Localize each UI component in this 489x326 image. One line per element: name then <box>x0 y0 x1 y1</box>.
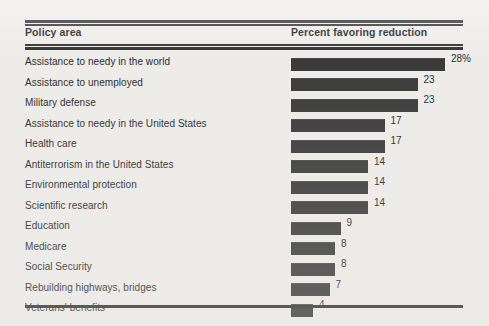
bar <box>291 222 341 235</box>
bar-container <box>291 78 418 90</box>
bar <box>291 242 335 255</box>
category-label: Health care <box>25 138 77 149</box>
bar <box>291 263 335 276</box>
bar-value-label: 17 <box>391 135 402 146</box>
bar-value-label: 17 <box>391 115 402 126</box>
category-label: Rebuilding highways, bridges <box>25 282 156 293</box>
bar-value-label: 8 <box>341 238 347 249</box>
chart-row: Assistance to unemployed23 <box>0 75 489 96</box>
bar-value-label: 23 <box>424 94 435 105</box>
category-label: Assistance to needy in the United States <box>25 118 207 129</box>
chart-row: Education9 <box>0 218 489 239</box>
bar-value-label: 28% <box>451 53 471 64</box>
bar-container <box>291 140 385 152</box>
category-label: Military defense <box>25 97 96 108</box>
category-label: Assistance to unemployed <box>25 77 143 88</box>
chart-rows: Assistance to needy in the world28%Assis… <box>0 0 489 326</box>
category-label: Environmental protection <box>25 179 137 190</box>
chart-row: Military defense23 <box>0 95 489 116</box>
bar-container <box>291 58 445 70</box>
bar-container <box>291 242 335 254</box>
bar <box>291 181 368 194</box>
footer-rule <box>25 305 463 308</box>
category-label: Antiterrorism in the United States <box>25 159 173 170</box>
bar <box>291 160 368 173</box>
bar-value-label: 7 <box>336 279 342 290</box>
chart-row: Health care17 <box>0 136 489 157</box>
chart-row: Assistance to needy in the world28% <box>0 54 489 75</box>
bar <box>291 140 385 153</box>
bar-value-label: 9 <box>347 217 353 228</box>
bar-value-label: 14 <box>374 197 385 208</box>
chart-row: Antiterrorism in the United States14 <box>0 157 489 178</box>
category-label: Education <box>25 220 70 231</box>
bar-chart-figure: Policy area Percent favoring reduction A… <box>0 0 489 326</box>
bar-container <box>291 283 330 295</box>
category-label: Social Security <box>25 261 92 272</box>
bar-value-label: 23 <box>424 74 435 85</box>
bar <box>291 201 368 214</box>
chart-row: Assistance to needy in the United States… <box>0 116 489 137</box>
chart-row: Veterans' benefits4 <box>0 300 489 321</box>
bar-container <box>291 99 418 111</box>
bar <box>291 99 418 112</box>
bar-container <box>291 119 385 131</box>
bar-container <box>291 181 368 193</box>
category-label: Scientific research <box>25 200 108 211</box>
bar <box>291 78 418 91</box>
chart-row: Social Security8 <box>0 259 489 280</box>
chart-row: Scientific research14 <box>0 198 489 219</box>
bar-value-label: 14 <box>374 176 385 187</box>
bar <box>291 58 445 71</box>
category-label: Medicare <box>25 241 67 252</box>
bar <box>291 119 385 132</box>
bar-value-label: 8 <box>341 258 347 269</box>
chart-row: Environmental protection14 <box>0 177 489 198</box>
bar-container <box>291 263 335 275</box>
chart-row: Rebuilding highways, bridges7 <box>0 280 489 301</box>
bar-container <box>291 201 368 213</box>
chart-row: Medicare8 <box>0 239 489 260</box>
bar <box>291 283 330 296</box>
bar-value-label: 14 <box>374 156 385 167</box>
bar-container <box>291 160 368 172</box>
bar-container <box>291 222 341 234</box>
category-label: Assistance to needy in the world <box>25 56 170 67</box>
